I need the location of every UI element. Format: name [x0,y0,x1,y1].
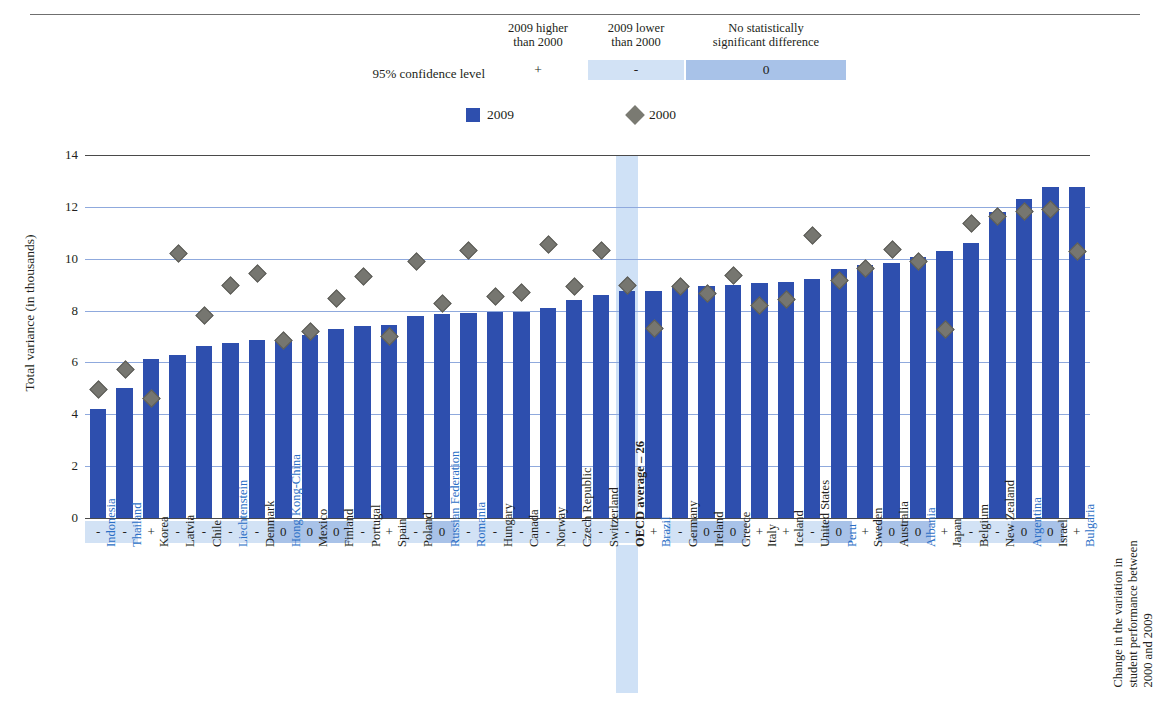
bar-2009[interactable] [196,346,212,518]
bar-column[interactable] [513,155,529,518]
bar-2009[interactable] [831,269,847,518]
diamond-marker-2000[interactable] [513,283,531,301]
bar-2009[interactable] [963,243,979,518]
bar-column[interactable] [857,155,873,518]
bar-2009[interactable] [1016,199,1032,518]
diamond-marker-2000[interactable] [407,252,425,270]
bar-2009[interactable] [249,340,265,518]
bar-2009[interactable] [910,257,926,518]
bar-column[interactable] [381,155,397,518]
bar-2009[interactable] [302,335,318,518]
bar-2009[interactable] [1042,187,1058,518]
diamond-marker-2000[interactable] [883,240,901,258]
diamond-marker-2000[interactable] [962,214,980,232]
bar-column[interactable] [540,155,556,518]
bar-2009[interactable] [540,308,556,518]
bar-column[interactable] [566,155,582,518]
diamond-marker-2000[interactable] [169,244,187,262]
bar-column[interactable] [778,155,794,518]
category-label: Switzerland [607,487,622,547]
y-axis-tick: 10 [65,251,78,267]
diamond-marker-2000[interactable] [486,287,504,305]
legend-symbol-minus: - [588,60,684,80]
bar-column[interactable] [698,155,714,518]
bar-column[interactable] [222,155,238,518]
bar-2009[interactable] [778,282,794,518]
bar-2009[interactable] [698,286,714,518]
bar-2009[interactable] [381,325,397,518]
diamond-marker-2000[interactable] [566,278,584,296]
bar-2009[interactable] [672,287,688,518]
bar-column[interactable] [143,155,159,518]
bar-column[interactable] [328,155,344,518]
bar-column[interactable] [1042,155,1058,518]
bar-2009[interactable] [513,312,529,518]
category-label: Belgium [977,504,992,547]
bar-column[interactable] [302,155,318,518]
bar-2009[interactable] [354,326,370,518]
category-label: Albania [924,507,939,547]
bar-column[interactable] [90,155,106,518]
bar-2009[interactable] [1069,187,1085,518]
bar-column[interactable] [831,155,847,518]
diamond-marker-2000[interactable] [804,226,822,244]
bar-2009[interactable] [328,329,344,518]
bar-column[interactable] [963,155,979,518]
diamond-marker-2000[interactable] [195,306,213,324]
bar-2009[interactable] [725,285,741,518]
diamond-marker-2000[interactable] [433,295,451,313]
bar-column[interactable] [407,155,423,518]
category-label: Thailand [130,503,145,547]
legend-header-lower: 2009 lower than 2000 [588,22,684,49]
bar-2009[interactable] [936,251,952,518]
diamond-marker-2000[interactable] [354,267,372,285]
bar-column[interactable] [936,155,952,518]
bar-column[interactable] [593,155,609,518]
category-label: Hong Kong-China [289,454,304,547]
category-label: United States [818,480,833,547]
diamond-marker-2000[interactable] [460,241,478,259]
bar-column[interactable] [910,155,926,518]
diamond-marker-2000[interactable] [592,241,610,259]
diamond-marker-2000[interactable] [248,265,266,283]
bar-column[interactable] [751,155,767,518]
bar-2009[interactable] [883,263,899,518]
category-label: Indonesia [104,498,119,547]
bar-column[interactable] [725,155,741,518]
bar-column[interactable] [1069,155,1085,518]
bar-column[interactable] [989,155,1005,518]
diamond-marker-2000[interactable] [90,380,108,398]
bar-column[interactable] [1016,155,1032,518]
category-label: Peru [845,524,860,547]
diamond-marker-2000[interactable] [116,361,134,379]
bar-column[interactable] [354,155,370,518]
bar-column[interactable] [249,155,265,518]
category-label: Japan [950,519,965,547]
bar-column[interactable] [487,155,503,518]
diamond-marker-2000[interactable] [328,289,346,307]
bar-2009[interactable] [857,265,873,518]
bar-swatch-icon [466,108,480,122]
bar-2009[interactable] [989,212,1005,518]
category-label: Denmark [263,500,278,547]
category-label: Mexico [316,509,331,547]
bar-column[interactable] [883,155,899,518]
bar-2009[interactable] [487,312,503,518]
bar-column[interactable] [672,155,688,518]
bar-2009[interactable] [143,359,159,518]
bar-column[interactable] [169,155,185,518]
diamond-marker-2000[interactable] [539,235,557,253]
bar-2009[interactable] [751,283,767,518]
bar-column[interactable] [804,155,820,518]
diamond-marker-2000[interactable] [724,266,742,284]
y-axis-tick: 2 [72,458,79,474]
category-label: Canada [527,510,542,547]
bar-column[interactable] [196,155,212,518]
diamond-marker-2000[interactable] [222,276,240,294]
bar-2009[interactable] [407,316,423,518]
category-label: Spain [395,519,410,547]
bar-column[interactable] [116,155,132,518]
bar-2009[interactable] [169,355,185,518]
legend-symbol-plus: + [490,60,586,80]
legend-item-2000: 2000 [628,104,676,126]
